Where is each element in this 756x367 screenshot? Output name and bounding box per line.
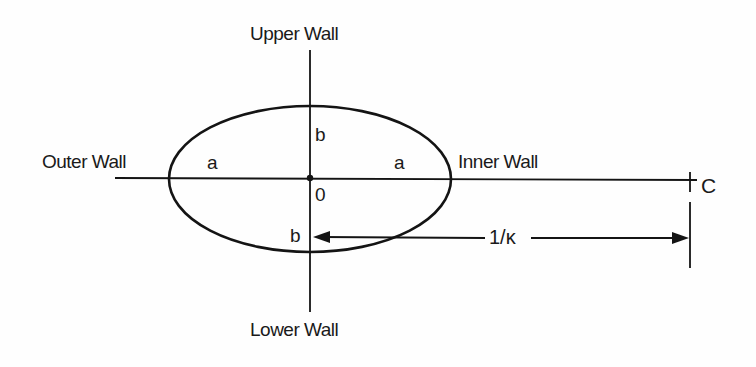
radius-dimension-line-left	[320, 237, 485, 238]
outer-wall-label: Outer Wall	[42, 152, 126, 171]
lower-wall-label: Lower Wall	[250, 320, 338, 339]
horizontal-axis	[115, 178, 697, 180]
center-of-curvature-label: C	[701, 175, 716, 196]
semi-axis-a-right-label: a	[394, 153, 405, 172]
semi-axis-a-left-label: a	[207, 153, 218, 172]
origin-label: 0	[315, 185, 326, 204]
radius-of-curvature-label: 1/κ	[489, 227, 516, 247]
origin-point	[307, 175, 313, 181]
elliptical-cross-section-diagram	[0, 0, 756, 367]
inner-wall-label: Inner Wall	[458, 152, 538, 171]
upper-wall-label: Upper Wall	[250, 24, 338, 43]
arrowhead-right-icon	[672, 232, 689, 244]
semi-axis-b-upper-label: b	[315, 125, 326, 144]
semi-axis-b-lower-label: b	[290, 226, 301, 245]
arrowhead-left-icon	[313, 231, 330, 243]
